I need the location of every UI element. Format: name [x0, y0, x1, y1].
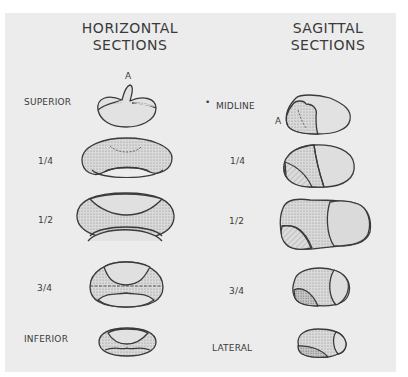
- sagittal-three-quarter-shape: [293, 268, 350, 306]
- sagittal-midline-shape: [286, 95, 350, 134]
- sections-artwork: [0, 0, 408, 377]
- horizontal-half-shape: [77, 193, 174, 241]
- sagittal-quarter-shape: [284, 145, 354, 187]
- sagittal-lateral-shape: [298, 329, 346, 357]
- horizontal-three-quarter-shape: [90, 262, 163, 307]
- horizontal-quarter-shape: [82, 138, 172, 178]
- horizontal-superior-shape: [98, 85, 156, 127]
- horizontal-inferior-shape: [99, 328, 156, 356]
- sagittal-half-shape: [280, 199, 370, 249]
